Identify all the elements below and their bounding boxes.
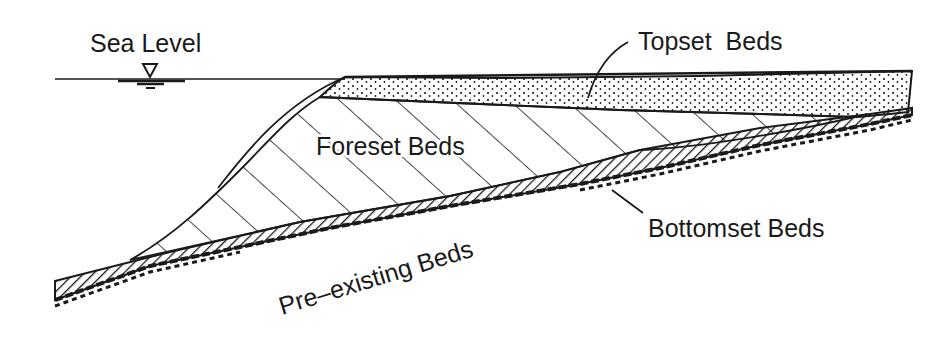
delta-cross-section-diagram: Sea Level Topset Beds Foreset Beds Botto… xyxy=(0,0,952,357)
sea-level-line xyxy=(55,79,345,88)
water-level-marker-icon xyxy=(143,64,157,77)
preexisting-beds-label: Pre–existing Beds xyxy=(275,234,476,320)
sea-level-label: Sea Level xyxy=(90,29,201,57)
bottomset-leader-line xyxy=(612,190,643,213)
foreset-beds-label: Foreset Beds xyxy=(316,132,465,160)
topset-beds-label: Topset Beds xyxy=(638,27,783,55)
bottomset-beds-label: Bottomset Beds xyxy=(648,214,824,242)
